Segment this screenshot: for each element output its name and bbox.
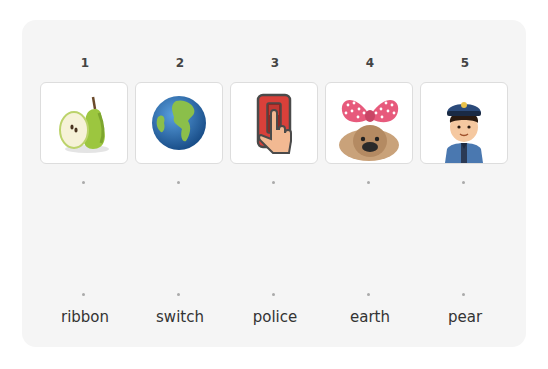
word-label: ribbon	[40, 308, 130, 326]
match-dot-bottom[interactable]	[82, 293, 85, 296]
police-officer-icon	[421, 83, 507, 163]
picture-number: 3	[230, 56, 320, 70]
picture-number: 2	[135, 56, 225, 70]
picture-card-police[interactable]	[420, 82, 508, 164]
match-dot-top[interactable]	[272, 181, 275, 184]
match-dot-bottom[interactable]	[272, 293, 275, 296]
picture-card-earth[interactable]	[135, 82, 223, 164]
picture-number: 4	[325, 56, 415, 70]
match-dot-top[interactable]	[462, 181, 465, 184]
picture-card-pear[interactable]	[40, 82, 128, 164]
dog-with-ribbon-icon	[326, 83, 412, 163]
switch-icon	[231, 83, 317, 163]
match-dot-bottom[interactable]	[367, 293, 370, 296]
pear-icon	[41, 83, 127, 163]
match-dot-bottom[interactable]	[177, 293, 180, 296]
word-label: police	[230, 308, 320, 326]
match-dot-bottom[interactable]	[462, 293, 465, 296]
word-label: switch	[135, 308, 225, 326]
word-label: pear	[420, 308, 510, 326]
match-dot-top[interactable]	[82, 181, 85, 184]
match-dot-top[interactable]	[177, 181, 180, 184]
earth-globe-icon	[136, 83, 222, 163]
picture-card-dog-ribbon[interactable]	[325, 82, 413, 164]
picture-number: 5	[420, 56, 510, 70]
matching-exercise-panel: 1 ribbon 2	[22, 20, 526, 347]
picture-card-switch[interactable]	[230, 82, 318, 164]
word-label: earth	[325, 308, 415, 326]
picture-number: 1	[40, 56, 130, 70]
match-dot-top[interactable]	[367, 181, 370, 184]
